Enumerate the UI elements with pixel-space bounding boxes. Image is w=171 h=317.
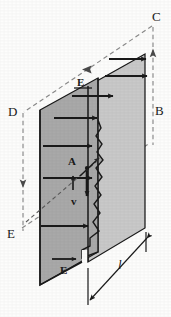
area-label: A (68, 156, 76, 167)
corner-label-d: D (8, 105, 17, 118)
figure-container: C B D E E E A v l (0, 0, 171, 317)
corner-label-c: C (152, 10, 161, 23)
velocity-label: v (71, 196, 77, 207)
length-label: l (118, 258, 122, 271)
crack-bottom-gap (82, 250, 88, 262)
physics-diagram-svg (0, 0, 171, 317)
field-label-top: E (77, 77, 84, 88)
corner-label-e: E (7, 227, 15, 240)
field-label-bottom: E (60, 265, 67, 276)
corner-label-b: B (155, 104, 164, 117)
